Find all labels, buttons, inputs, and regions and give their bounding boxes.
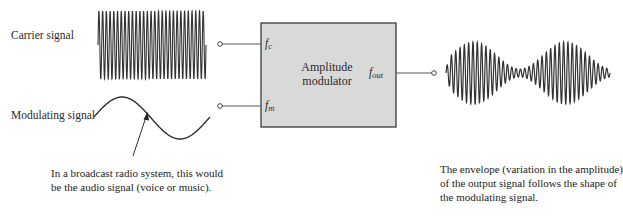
output-annotation-line1: The envelope (variation in the amplitude… bbox=[440, 162, 623, 176]
port-fout-label: fout bbox=[369, 66, 383, 80]
block-title-line1: Amplitude bbox=[291, 60, 363, 74]
port-fout-sub: out bbox=[372, 70, 383, 80]
port-fc-sub: c bbox=[268, 41, 272, 51]
port-fm-label: fm bbox=[265, 99, 274, 113]
modulating-annotation-line1: In a broadcast radio system, this would bbox=[51, 166, 223, 180]
modulating-annotation: In a broadcast radio system, this would … bbox=[51, 166, 223, 194]
block-title-line2: modulator bbox=[291, 74, 363, 88]
port-fc-label: fc bbox=[265, 37, 272, 51]
output-annotation-line3: the modulating signal. bbox=[440, 190, 623, 204]
modulating-annotation-line2: be the audio signal (voice or music). bbox=[51, 180, 223, 194]
fout-output-terminal bbox=[432, 71, 437, 76]
am-output-waveform bbox=[446, 42, 610, 104]
carrier-signal-label: Carrier signal bbox=[11, 29, 74, 42]
port-fm-sub: m bbox=[268, 103, 274, 113]
output-annotation: The envelope (variation in the amplitude… bbox=[440, 162, 623, 204]
modulating-waveform bbox=[94, 97, 210, 139]
modulating-signal-label: Modulating signal bbox=[11, 109, 95, 122]
fc-input-terminal bbox=[218, 42, 223, 47]
carrier-waveform bbox=[98, 11, 206, 79]
fm-input-terminal bbox=[218, 104, 223, 109]
output-annotation-line2: of the output signal follows the shape o… bbox=[440, 176, 623, 190]
block-title: Amplitude modulator bbox=[291, 60, 363, 88]
annotation-arrow-line bbox=[133, 117, 146, 156]
